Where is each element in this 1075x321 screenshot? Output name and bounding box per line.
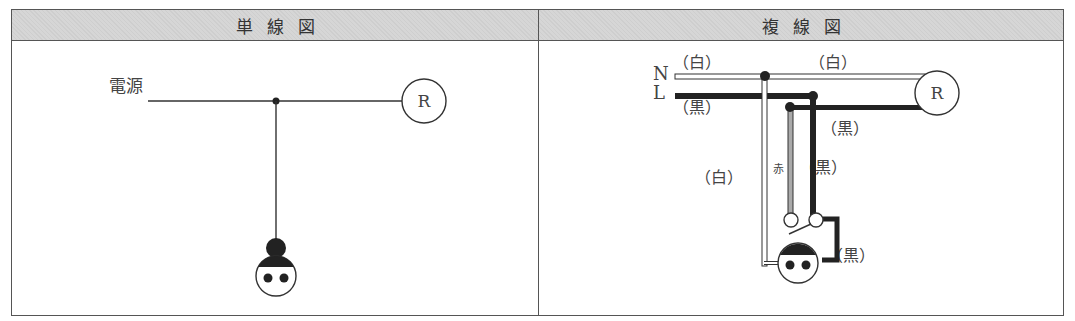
multi-line-diagram-title: 複線図 (539, 10, 1063, 41)
white-wire-outlet (762, 78, 767, 266)
lamp-label: R (418, 91, 432, 111)
wire-label-switch-black: （黒） (799, 158, 847, 177)
line-wire (675, 93, 813, 99)
lamp-label: R (931, 83, 945, 103)
outlet-pin-right (280, 274, 289, 283)
switch-symbol (266, 238, 286, 258)
multi-line-diagram-panel: 複線図 N L （白） （白） （黒） （黒） （白） 赤 （黒） （黒） (539, 10, 1063, 315)
wiring-diagram-table: 単線図 電源 R 複線図 N L （白） （白） （黒） （黒） （白） (11, 9, 1064, 316)
outlet-pin-left (264, 274, 273, 283)
power-source-label: 電源 (109, 76, 143, 96)
single-line-diagram-panel: 単線図 電源 R (12, 10, 539, 315)
single-line-diagram: 電源 R (12, 41, 538, 316)
wire-label-switch-red: 赤 (773, 163, 784, 176)
switch-terminal-left (784, 213, 798, 227)
switch-terminal-right (809, 213, 823, 227)
wire-label-n-left: （白） (673, 53, 721, 72)
line-label: L (653, 82, 665, 103)
multi-line-diagram: N L （白） （白） （黒） （黒） （白） 赤 （黒） （黒） (539, 41, 1063, 316)
wire-label-lamp-return: （黒） (821, 119, 869, 138)
wire-label-n-right: （白） (809, 53, 857, 72)
wire-label-l-left: （黒） (673, 98, 721, 117)
neutral-label: N (653, 63, 669, 84)
red-wire (788, 107, 793, 215)
neutral-wire (675, 74, 925, 79)
wire-label-switch-white: （白） (695, 168, 743, 187)
single-line-diagram-title: 単線図 (12, 10, 538, 41)
outlet-pin-left (786, 261, 795, 270)
lamp-return-wire (788, 105, 928, 110)
outlet-pin-right (802, 261, 811, 270)
